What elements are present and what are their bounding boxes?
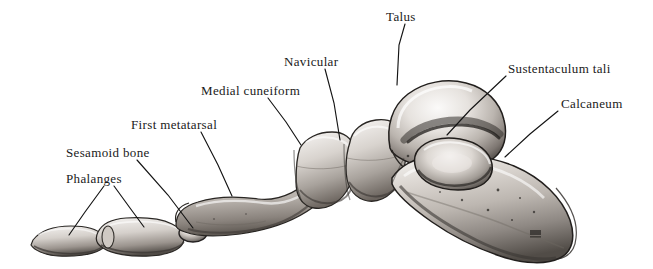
label-phalanges: Phalanges	[66, 172, 122, 185]
foot-skeleton-illustration	[0, 0, 653, 269]
bone-proximal-phalanx	[96, 218, 184, 256]
bone-distal-phalanx	[31, 226, 106, 256]
label-first-metatarsal: First metatarsal	[131, 118, 217, 131]
label-sesamoid-bone: Sesamoid bone	[66, 146, 150, 159]
artist-monogram-icon	[530, 230, 541, 238]
foot-skeleton-figure: Talus Sustentaculum tali Calcaneum Navic…	[0, 0, 653, 269]
label-navicular: Navicular	[284, 55, 338, 68]
label-talus: Talus	[386, 10, 416, 23]
label-sustentaculum-tali: Sustentaculum tali	[508, 62, 611, 75]
label-calcaneum: Calcaneum	[561, 97, 623, 110]
label-medial-cuneiform: Medial cuneiform	[201, 84, 300, 97]
